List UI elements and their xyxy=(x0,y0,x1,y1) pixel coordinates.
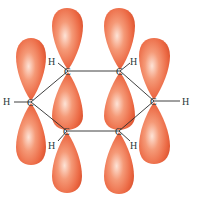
carbon-label: C xyxy=(116,66,123,77)
carbon-label: C xyxy=(150,96,157,107)
carbon-label: C xyxy=(64,66,71,77)
hydrogen-label: H xyxy=(130,56,137,67)
ring-bonds xyxy=(31,71,154,131)
hydrogen-label: H xyxy=(130,140,137,151)
carbon-label: C xyxy=(115,126,122,137)
benzene-orbital-diagram: C C C C C C H H H H H H xyxy=(0,0,198,206)
carbon-labels: C C C C C C xyxy=(27,66,157,137)
hydrogen-label: H xyxy=(3,96,10,107)
carbon-label: C xyxy=(63,126,70,137)
hydrogen-label: H xyxy=(182,96,189,107)
hydrogen-label: H xyxy=(48,140,55,151)
carbon-label: C xyxy=(27,97,34,108)
hydrogen-label: H xyxy=(48,56,55,67)
